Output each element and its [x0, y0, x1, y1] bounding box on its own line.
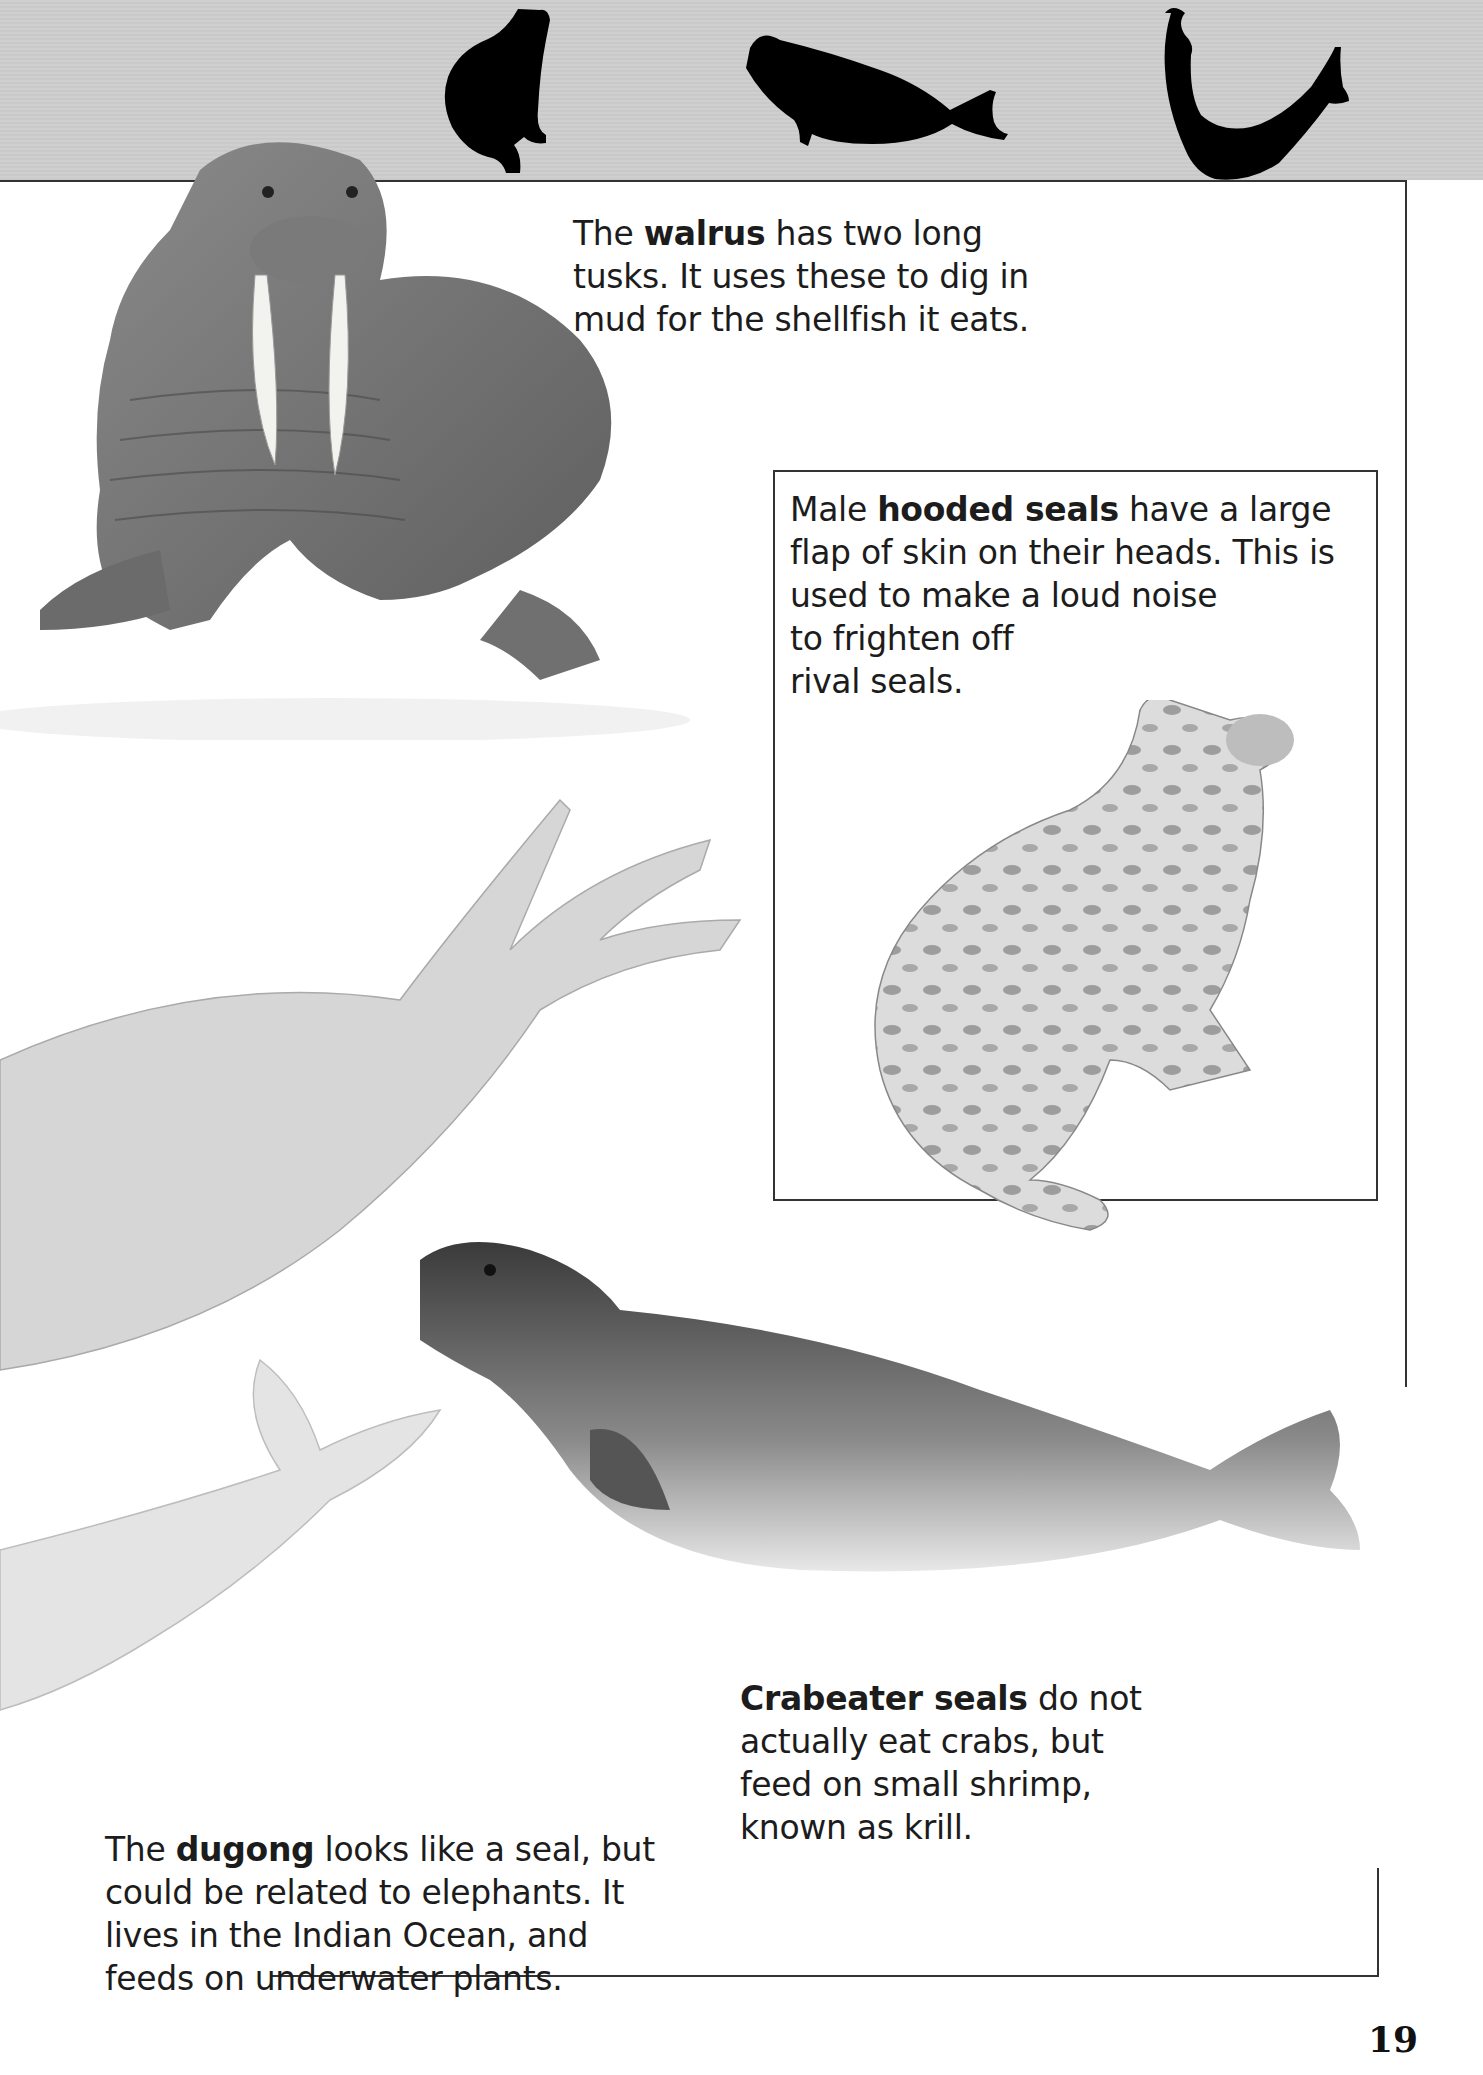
crab-line-2: actually eat crabs, but — [740, 1722, 1104, 1761]
dugong-caption: The dugong looks like a seal, but could … — [105, 1828, 655, 2000]
crabeater-seal-illustration — [400, 1220, 1483, 1580]
lying-seal-silhouette-icon — [745, 30, 1055, 150]
crab-line-4: known as krill. — [740, 1808, 973, 1847]
walrus-caption: The walrus has two long tusks. It uses t… — [573, 212, 1029, 341]
arched-seal-silhouette-icon — [1155, 5, 1355, 180]
hooded-seal-illustration — [800, 700, 1320, 1300]
frame-right-rule — [1405, 180, 1407, 1387]
crab-line-3: feed on small shrimp, — [740, 1765, 1092, 1804]
hooded-seal-term: hooded seals — [877, 490, 1119, 529]
crabeater-term: Crabeater seals — [740, 1679, 1028, 1718]
hood-line-3: used to make a loud noise — [790, 576, 1217, 615]
dugong-line-4: feeds on underwater plants. — [105, 1959, 562, 1998]
walrus-line-1-rest: has two long — [765, 214, 982, 253]
dugong-line-2: could be related to elephants. It — [105, 1873, 624, 1912]
hood-line-4: to frighten off — [790, 619, 1013, 658]
walrus-line-3: mud for the shellfish it eats. — [573, 300, 1029, 339]
dugong-term: dugong — [176, 1830, 315, 1869]
walrus-line-2: tusks. It uses these to dig in — [573, 257, 1029, 296]
dugong-line-1-rest: looks like a seal, but — [314, 1830, 654, 1869]
crab-line-1-rest: do not — [1028, 1679, 1142, 1718]
hood-line-1-rest: have a large — [1119, 490, 1331, 529]
hooded-seal-caption: Male hooded seals have a large flap of s… — [790, 488, 1335, 703]
page-number: 19 — [1368, 2018, 1418, 2060]
frame-right-rule-lower — [1377, 1868, 1379, 1976]
hood-line-5: rival seals. — [790, 662, 963, 701]
walrus-term: walrus — [644, 214, 766, 253]
hood-line-2: flap of skin on their heads. This is — [790, 533, 1335, 572]
dugong-line-3: lives in the Indian Ocean, and — [105, 1916, 588, 1955]
crabeater-seal-caption: Crabeater seals do not actually eat crab… — [740, 1677, 1142, 1849]
